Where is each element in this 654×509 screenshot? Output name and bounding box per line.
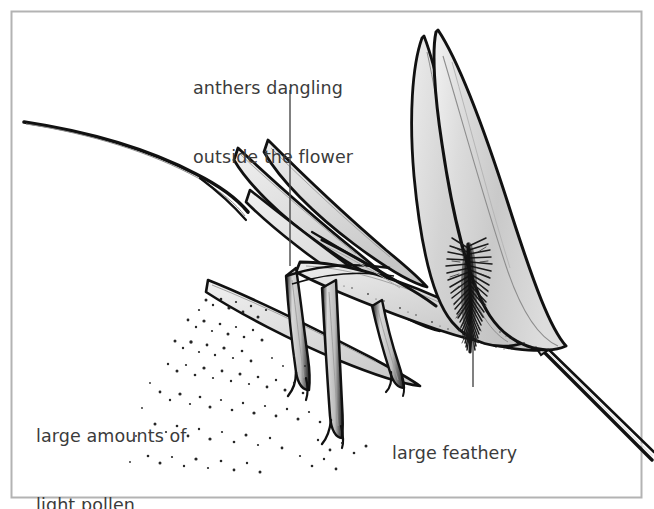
- label-anthers-line1: anthers dangling: [193, 77, 353, 100]
- label-stigma-line1: large feathery: [392, 442, 552, 465]
- label-pollen-line1: large amounts of: [36, 425, 187, 448]
- label-anthers: anthers dangling outside the flower: [193, 31, 353, 192]
- label-pollen: large amounts of light pollen: [36, 379, 187, 509]
- label-pollen-line2: light pollen: [36, 494, 187, 509]
- label-anthers-line2: outside the flower: [193, 146, 353, 169]
- label-stigma: large feathery stigma hanging outside th…: [392, 396, 552, 509]
